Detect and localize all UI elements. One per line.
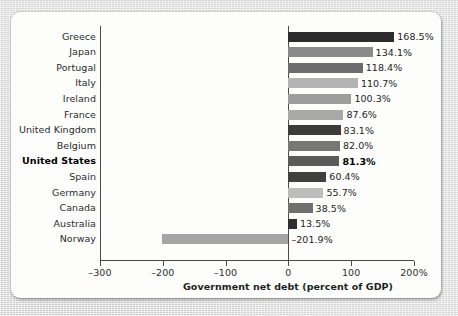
bar-row: Canada38.5% [11, 200, 441, 216]
x-tick-label: 100 [342, 267, 360, 278]
value-label: –201.9% [291, 234, 332, 245]
bar [288, 203, 312, 213]
value-label: 82.0% [343, 140, 373, 151]
bar-row: Italy110.7% [11, 75, 441, 91]
bar [288, 141, 339, 151]
x-axis-line [100, 260, 414, 261]
category-label: United Kingdom [19, 124, 96, 135]
value-label: 60.4% [329, 171, 359, 182]
bar-row: Greece168.5% [11, 29, 441, 45]
x-tick-mark [226, 261, 227, 266]
x-axis-title: Government net debt (percent of GDP) [138, 281, 438, 292]
chart-card: Greece168.5%Japan134.1%Portugal118.4%Ita… [11, 12, 441, 298]
bar [288, 78, 358, 88]
category-label: Spain [69, 171, 96, 182]
bar-row: Norway–201.9% [11, 231, 441, 247]
x-tick-mark [351, 261, 352, 266]
category-label: Canada [60, 202, 96, 213]
bar-row: France87.6% [11, 107, 441, 123]
value-label: 81.3% [342, 156, 375, 167]
bar [288, 156, 339, 166]
value-label: 55.7% [326, 187, 356, 198]
bar [288, 188, 323, 198]
x-tick-mark [100, 261, 101, 266]
x-tick-label: 200% [400, 267, 428, 278]
bar-row: Ireland100.3% [11, 91, 441, 107]
value-label: 134.1% [376, 47, 413, 58]
value-label: 13.5% [300, 218, 330, 229]
value-label: 100.3% [354, 93, 391, 104]
x-tick-mark [163, 261, 164, 266]
bar [288, 219, 296, 229]
category-label: Portugal [56, 62, 96, 73]
value-label: 38.5% [316, 203, 346, 214]
category-label: Germany [52, 187, 96, 198]
category-label: Greece [62, 31, 96, 42]
bar-row: Spain60.4% [11, 169, 441, 185]
bar [288, 63, 362, 73]
x-tick-label: –300 [88, 267, 111, 278]
bar [288, 172, 326, 182]
category-label: Norway [60, 233, 96, 244]
bar [288, 110, 343, 120]
bar [288, 32, 394, 42]
bar [288, 94, 351, 104]
value-label: 168.5% [397, 31, 434, 42]
category-label: Ireland [63, 93, 96, 104]
category-label: Italy [75, 77, 96, 88]
bar-row: Australia13.5% [11, 216, 441, 232]
bar-row: United Kingdom83.1% [11, 122, 441, 138]
category-label: Belgium [57, 140, 96, 151]
x-tick-label: –100 [214, 267, 237, 278]
bar-row: United States81.3% [11, 153, 441, 169]
category-label: Japan [69, 46, 96, 57]
value-label: 110.7% [361, 78, 398, 89]
bar [288, 47, 372, 57]
x-tick-label: –200 [151, 267, 174, 278]
bar-chart-plot-area: Greece168.5%Japan134.1%Portugal118.4%Ita… [11, 12, 441, 298]
x-tick-mark [414, 261, 415, 266]
bar [162, 234, 289, 244]
category-label: France [64, 109, 96, 120]
bar-row: Japan134.1% [11, 44, 441, 60]
category-label: United States [22, 155, 96, 166]
x-tick-mark [288, 261, 289, 266]
value-label: 87.6% [346, 109, 376, 120]
bar [288, 125, 340, 135]
bar-row: Germany55.7% [11, 185, 441, 201]
x-tick-label: 0 [285, 267, 291, 278]
bar-row: Portugal118.4% [11, 60, 441, 76]
category-label: Australia [54, 218, 96, 229]
value-label: 83.1% [344, 125, 374, 136]
value-label: 118.4% [366, 62, 403, 73]
bar-row: Belgium82.0% [11, 138, 441, 154]
